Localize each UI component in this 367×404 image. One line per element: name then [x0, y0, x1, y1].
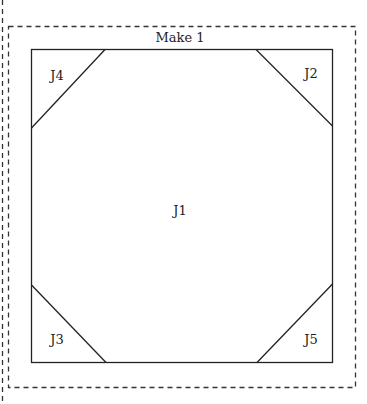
piece-j4-edge — [32, 50, 106, 129]
piece-j5-edge — [257, 284, 333, 363]
piece-j2-edge — [256, 50, 333, 127]
piece-label-j5: J5 — [302, 332, 317, 347]
piece-label-j3: J3 — [48, 332, 63, 347]
piece-label-j2: J2 — [302, 66, 317, 81]
make-title: Make 1 — [155, 30, 204, 45]
piece-label-j4: J4 — [48, 68, 63, 83]
piece-label-j1: J1 — [171, 203, 186, 218]
cutting-diagram: Make 1 J1 J2 J3 J4 J5 — [0, 0, 367, 404]
piece-j3-edge — [32, 285, 107, 363]
